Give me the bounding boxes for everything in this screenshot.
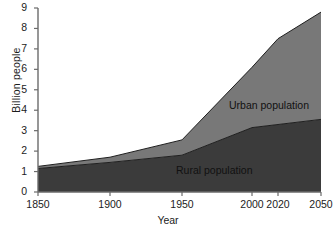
x-tick-label: 1850	[26, 198, 49, 210]
y-tick-label: 6	[5, 62, 27, 74]
x-tick-label: 2020	[266, 198, 289, 210]
x-tick-label: 1900	[98, 198, 121, 210]
population-area-chart: Billion people 0123456789 18501900195020	[0, 0, 336, 232]
y-tick-label: 8	[5, 21, 27, 33]
y-tick-label: 7	[5, 42, 27, 54]
x-tick-label: 1950	[170, 198, 193, 210]
y-tick-label: 2	[5, 144, 27, 156]
y-tick-label: 4	[5, 103, 27, 115]
y-tick-label: 5	[5, 83, 27, 95]
urban-population-label: Urban population	[229, 99, 309, 111]
x-tick-label: 2050	[309, 198, 332, 210]
y-tick-label: 3	[5, 124, 27, 136]
rural-population-label: Rural population	[176, 164, 252, 176]
y-tick-label: 1	[5, 165, 27, 177]
x-axis-tick-labels: 185019001950200020202050	[0, 196, 336, 214]
x-tick-label: 2000	[240, 198, 263, 210]
x-axis-title: Year	[0, 214, 336, 226]
y-tick-label: 9	[5, 1, 27, 13]
